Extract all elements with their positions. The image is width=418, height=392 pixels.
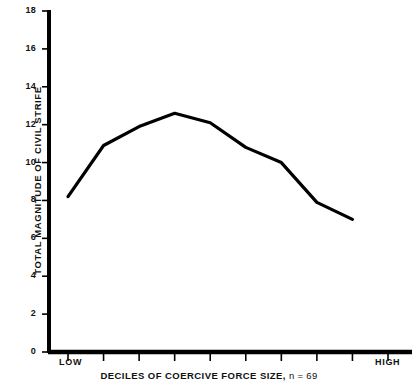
chart-figure: TOTAL MAGNITUDE OF CIVIL STRIFE DECILES … xyxy=(0,0,418,392)
x-axis-low-label: LOW xyxy=(59,357,82,367)
y-axis-tick-label: 16 xyxy=(14,43,36,53)
y-axis-tick-label: 6 xyxy=(14,232,36,242)
y-axis-tick-label: 14 xyxy=(14,81,36,91)
y-axis-title: TOTAL MAGNITUDE OF CIVIL STRIFE xyxy=(32,66,43,296)
y-axis-tick-label: 8 xyxy=(14,194,36,204)
y-axis-tick-label: 0 xyxy=(14,346,36,356)
y-axis-tick-label: 10 xyxy=(14,157,36,167)
data-series-line xyxy=(68,113,352,219)
x-axis-title: DECILES OF COERCIVE FORCE SIZE, n = 69 xyxy=(0,370,418,381)
chart-plot-area xyxy=(0,0,418,392)
y-axis-tick-label: 18 xyxy=(14,5,36,15)
x-axis-title-main: DECILES OF COERCIVE FORCE SIZE, xyxy=(100,370,286,381)
x-axis-sample-size: n = 69 xyxy=(289,370,317,381)
x-axis-high-label: HIGH xyxy=(375,357,400,367)
y-axis-tick-label: 12 xyxy=(14,119,36,129)
y-axis-tick-label: 4 xyxy=(14,270,36,280)
y-axis-tick-label: 2 xyxy=(14,308,36,318)
